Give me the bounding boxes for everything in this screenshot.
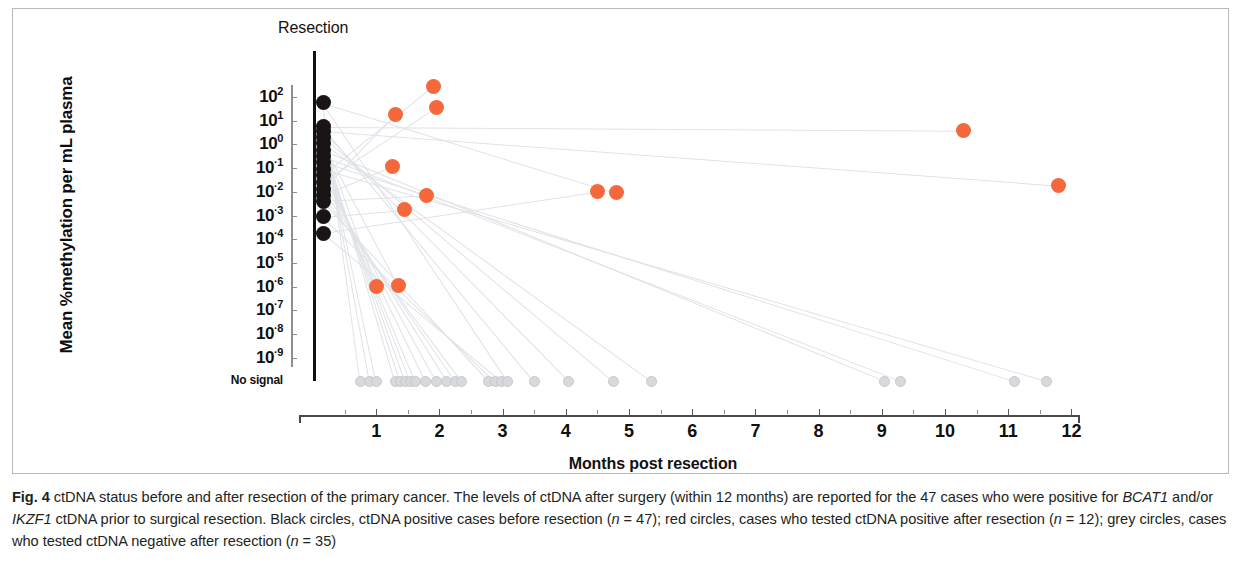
- x-axis-minor-tick: [345, 410, 346, 414]
- no-signal-label: No signal: [209, 373, 283, 387]
- y-axis-tick: [291, 358, 297, 359]
- x-axis-tick: [1008, 409, 1009, 415]
- x-axis-tick-label: 5: [612, 421, 646, 442]
- caption-line2-b: and/or: [1168, 489, 1213, 505]
- caption-line2-a: cases who were positive for: [940, 489, 1122, 505]
- x-axis-minor-tick: [1040, 410, 1041, 414]
- caption-figure-label: Fig. 4: [12, 489, 50, 505]
- data-point-red: [419, 188, 434, 203]
- data-point-red: [397, 202, 412, 217]
- x-axis-tick: [692, 409, 693, 415]
- data-point-black: [316, 226, 331, 241]
- y-axis-tick: [291, 239, 297, 240]
- y-axis-tick-label: 102: [221, 85, 283, 107]
- caption-line1: ctDNA status before and after resection …: [50, 489, 937, 505]
- y-axis-tick-label: 10·1: [221, 156, 283, 178]
- resection-label: Resection: [278, 19, 348, 37]
- x-axis-minor-tick: [787, 410, 788, 414]
- y-axis-tick-label: 10·2: [221, 180, 283, 202]
- y-axis-tick-label: 101: [221, 109, 283, 131]
- data-point-black: [316, 194, 331, 209]
- x-axis-minor-tick: [913, 410, 914, 414]
- x-axis-minor-tick: [661, 410, 662, 414]
- data-point-red: [426, 79, 441, 94]
- y-axis-tick: [291, 97, 297, 98]
- x-axis-tick-label: 8: [802, 421, 836, 442]
- caption-line3-a: circles, cases who tested ctDNA positive…: [690, 511, 1054, 527]
- data-point-grey: [879, 376, 890, 387]
- x-axis-tick: [882, 409, 883, 415]
- x-axis-tick: [1071, 409, 1072, 415]
- x-axis-minor-tick: [408, 410, 409, 414]
- y-axis-tick: [291, 168, 297, 169]
- x-axis-tick-label: 9: [865, 421, 899, 442]
- data-point-red: [609, 185, 624, 200]
- data-point-grey: [895, 376, 906, 387]
- data-point-grey: [563, 376, 574, 387]
- x-axis-tick-label: 4: [549, 421, 583, 442]
- x-axis-minor-tick: [850, 410, 851, 414]
- x-axis-tick: [439, 409, 440, 415]
- data-point-red: [590, 184, 605, 199]
- y-axis-tick: [291, 310, 297, 311]
- data-point-red: [369, 279, 384, 294]
- x-axis-tick: [945, 409, 946, 415]
- data-point-grey: [1009, 376, 1020, 387]
- data-point-red: [391, 278, 406, 293]
- y-axis-tick: [291, 192, 297, 193]
- x-axis-minor-tick: [597, 410, 598, 414]
- x-axis-tick: [629, 409, 630, 415]
- x-axis-tick-label: 10: [928, 421, 962, 442]
- connector-line: [322, 175, 436, 381]
- x-axis-tick-label: 12: [1054, 421, 1088, 442]
- y-axis-tick: [291, 121, 297, 122]
- data-point-grey: [529, 376, 540, 387]
- x-axis-tick-label: 11: [991, 421, 1025, 442]
- caption-line2-c: ctDNA prior to surgical resection. Black…: [51, 511, 611, 527]
- x-axis-tick-label: 7: [738, 421, 772, 442]
- x-axis-tick-label: 6: [675, 421, 709, 442]
- y-axis-tick: [291, 287, 297, 288]
- data-point-grey: [371, 376, 382, 387]
- data-point-red: [385, 159, 400, 174]
- x-axis-tick: [503, 409, 504, 415]
- caption-gene-bcat1: BCAT1: [1122, 489, 1168, 505]
- caption-n-value-1: = 47); red: [620, 511, 686, 527]
- x-axis-tick: [755, 409, 756, 415]
- data-point-grey: [431, 376, 442, 387]
- caption-gene-ikzf1: IKZF1: [12, 511, 51, 527]
- data-point-black: [316, 209, 331, 224]
- caption-n-italic-1: n: [612, 511, 620, 527]
- data-point-red: [1051, 178, 1066, 193]
- connector-line: [323, 127, 964, 132]
- y-axis-tick-label: 100: [221, 132, 283, 154]
- x-axis-tick-label: 2: [422, 421, 456, 442]
- x-axis-line: [299, 415, 1078, 417]
- y-axis-tick-label: 10·4: [221, 227, 283, 249]
- caption-n-italic-2: n: [1054, 511, 1062, 527]
- y-axis-tick-label: 10·6: [221, 275, 283, 297]
- data-point-red: [429, 100, 444, 115]
- y-axis-tick-label: 10·5: [221, 251, 283, 273]
- data-point-grey: [646, 376, 657, 387]
- y-axis-line: [291, 85, 293, 367]
- data-point-grey: [608, 376, 619, 387]
- figure-caption: Fig. 4 ctDNA status before and after res…: [12, 486, 1227, 553]
- y-axis-tick-label: 10·9: [221, 346, 283, 368]
- x-axis-minor-tick: [471, 410, 472, 414]
- x-axis-tick: [819, 409, 820, 415]
- data-point-red: [388, 107, 403, 122]
- x-axis-tick: [376, 409, 377, 415]
- y-axis-tick: [291, 216, 297, 217]
- x-axis-minor-tick: [724, 410, 725, 414]
- plot-area: Mean %methylation per mL plasma 10210110…: [13, 9, 1230, 475]
- data-point-black: [316, 95, 331, 110]
- connector-line: [323, 131, 1059, 187]
- figure-panel: Mean %methylation per mL plasma 10210110…: [12, 8, 1229, 474]
- x-axis-tick-label: 1: [359, 421, 393, 442]
- data-point-grey: [456, 376, 467, 387]
- y-axis-tick: [291, 263, 297, 264]
- y-axis-tick: [291, 334, 297, 335]
- caption-n-italic-3: n: [291, 533, 299, 549]
- data-point-grey: [1041, 376, 1052, 387]
